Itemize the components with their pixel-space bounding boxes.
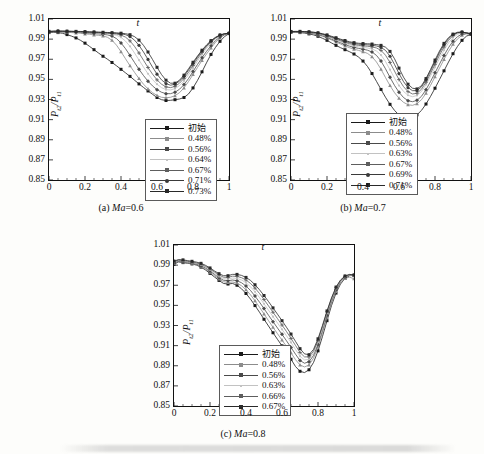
chart-panel-c: Pt2/Pt1 初始0.48%0.56%0.63%0.66%0.67% 1.01… [118,226,368,452]
legend-row: 0.63% [224,381,285,392]
y-axis-tick: 0.93 [153,321,170,331]
legend-row: 0.63% [351,149,412,160]
caption-b: (b) Ma=0.7 [242,202,484,213]
legend-label: 0.64% [188,155,211,164]
legend-label: 0.56% [262,371,285,380]
y-axis-tick: 0.85 [270,175,287,185]
legend-row: 0.64% [150,155,211,166]
legend-row: 0.67% [351,159,412,170]
y-axis-tick: 0.93 [28,95,45,105]
legend-row: 0.56% [150,144,211,155]
legend-swatch-icon [150,155,184,165]
legend-swatch-icon [224,370,258,380]
x-axis-label-c: t [262,241,265,252]
y-axis-tick: 0.89 [28,135,45,145]
caption-a: (a) Ma=0.6 [0,202,242,213]
legend-label: 0.66% [262,392,285,401]
data-line-0.48% [49,32,229,98]
y-axis-tick: 0.87 [28,155,45,165]
x-axis-tick: 1 [469,183,474,193]
y-axis-tick: 1.01 [153,240,170,250]
x-axis-tick: 0 [289,183,294,193]
legend-row: 0.56% [351,138,412,149]
data-line-0.63% [291,32,471,97]
legend-label: 初始 [262,350,280,359]
x-axis-tick: 0.6 [393,183,405,193]
legend-row: 初始 [224,349,285,360]
legend-swatch-icon [351,149,385,159]
legend-swatch-icon [351,138,385,148]
legend-row: 初始 [351,117,412,128]
legend-row: 0.48% [351,128,412,139]
legend-label: 0.63% [389,149,412,158]
legend-label: 0.48% [188,134,211,143]
y-axis-tick: 0.99 [153,260,170,270]
legend-swatch-icon [224,349,258,359]
x-axis-tick: 0.2 [79,183,91,193]
x-axis-tick: 0.6 [276,409,288,419]
legend-swatch-icon [150,165,184,175]
legend-label: 0.67% [389,160,412,169]
y-axis-tick: 0.99 [28,34,45,44]
y-axis-tick: 0.99 [270,34,287,44]
legend-swatch-icon [351,159,385,169]
legend-label: 0.56% [188,145,211,154]
y-axis-tick: 0.91 [153,341,170,351]
x-axis-tick: 0 [47,183,52,193]
caption-c: (c) Ma=0.8 [118,428,368,439]
y-axis-tick: 0.87 [270,155,287,165]
legend-swatch-icon [224,360,258,370]
legend-swatch-icon [351,128,385,138]
y-axis-tick: 0.89 [270,135,287,145]
legend-swatch-icon [351,117,385,127]
y-axis-tick: 0.91 [28,115,45,125]
page-text-smudge [60,445,456,452]
x-axis-tick: 0.4 [240,409,252,419]
legend-row: 0.67% [150,165,211,176]
y-axis-tick: 0.85 [153,401,170,411]
x-axis-tick: 0.8 [187,183,199,193]
y-axis-tick: 0.85 [28,175,45,185]
x-axis-tick: 1 [352,409,357,419]
legend-label: 初始 [188,124,206,133]
chart-panel-b: Pt2/Pt1 初始0.48%0.56%0.63%0.67%0.69%0.71%… [242,2,484,226]
legend-label: 0.48% [262,360,285,369]
legend-swatch-icon [150,134,184,144]
legend-swatch-icon [351,170,385,180]
x-axis-label-a: t [137,17,140,28]
legend-label: 0.67% [188,166,211,175]
legend-swatch-icon [224,391,258,401]
legend-label: 0.56% [389,139,412,148]
legend-label: 初始 [389,118,407,127]
figure-root: Pt2/Pt1 初始0.48%0.56%0.64%0.67%0.71%0.73%… [0,0,484,454]
y-axis-tick: 0.89 [153,361,170,371]
legend-row: 0.48% [224,360,285,371]
chart-panel-a: Pt2/Pt1 初始0.48%0.56%0.64%0.67%0.71%0.73%… [0,2,242,226]
plot-area-a: Pt2/Pt1 初始0.48%0.56%0.64%0.67%0.71%0.73%… [48,18,230,181]
legend-label: 0.69% [389,170,412,179]
y-axis-tick: 0.97 [270,55,287,65]
y-axis-tick: 1.01 [270,14,287,24]
x-axis-tick: 0.6 [151,183,163,193]
x-axis-tick: 0.4 [357,183,369,193]
legend-c: 初始0.48%0.56%0.63%0.66%0.67% [219,345,291,416]
legend-row: 0.66% [224,391,285,402]
y-axis-tick: 0.95 [270,75,287,85]
x-axis-tick: 0 [172,409,177,419]
y-axis-tick: 0.95 [153,301,170,311]
plot-area-b: Pt2/Pt1 初始0.48%0.56%0.63%0.67%0.69%0.71%… [290,18,472,181]
legend-swatch-icon [224,381,258,391]
y-axis-tick: 0.95 [28,75,45,85]
legend-swatch-icon [150,123,184,133]
y-axis-tick: 0.91 [270,115,287,125]
x-axis-tick: 0.2 [204,409,216,419]
legend-row: 初始 [150,123,211,134]
x-axis-label-b: t [379,17,382,28]
legend-row: 0.56% [224,370,285,381]
plot-area-c: Pt2/Pt1 初始0.48%0.56%0.63%0.66%0.67% 1.01… [173,244,355,407]
x-axis-tick: 0.4 [115,183,127,193]
y-axis-tick: 0.93 [270,95,287,105]
y-axis-tick: 0.97 [153,281,170,291]
x-axis-tick: 0.8 [312,409,324,419]
x-axis-tick: 0.8 [429,183,441,193]
